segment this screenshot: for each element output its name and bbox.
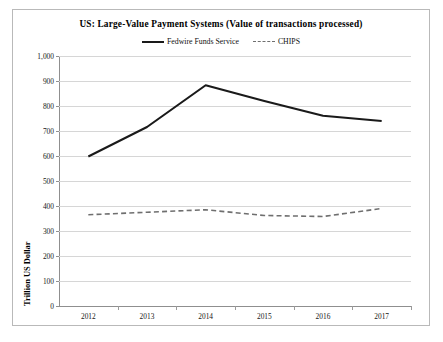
y-tick-label: 800 <box>43 102 54 111</box>
legend-label-fedwire: Fedwire Funds Service <box>167 37 239 46</box>
chart-figure: US: Large-Value Payment Systems (Value o… <box>12 9 430 326</box>
x-tick-label: 2012 <box>81 312 96 321</box>
chart-legend: Fedwire Funds Service CHIPS <box>13 37 429 46</box>
y-tick-label: 200 <box>43 252 54 261</box>
x-tick-label: 2016 <box>316 312 331 321</box>
y-axis-title: Trillion US Dollar <box>23 56 32 306</box>
chart-title: US: Large-Value Payment Systems (Value o… <box>13 19 429 29</box>
x-tick-mark <box>176 306 177 310</box>
x-tick-label: 2013 <box>140 312 155 321</box>
y-tick-label: 900 <box>43 77 54 86</box>
x-tick-mark <box>294 306 295 310</box>
y-tick-label: 700 <box>43 127 54 136</box>
y-tick-label: 300 <box>43 227 54 236</box>
legend-item-chips: CHIPS <box>253 37 300 46</box>
y-tick-label: 500 <box>43 177 54 186</box>
series-line-fedwire-funds-service <box>88 85 381 156</box>
y-tick-label: 400 <box>43 202 54 211</box>
x-tick-label: 2014 <box>198 312 213 321</box>
legend-label-chips: CHIPS <box>278 37 300 46</box>
legend-item-fedwire: Fedwire Funds Service <box>142 37 239 46</box>
x-tick-mark <box>352 306 353 310</box>
x-tick-mark <box>411 306 412 310</box>
y-tick-label: 1,000 <box>37 52 54 61</box>
y-tick-label: 100 <box>43 277 54 286</box>
x-tick-mark <box>235 306 236 310</box>
y-tick-mark <box>56 306 59 307</box>
series-layer <box>59 56 411 306</box>
plot-area: 01002003004005006007008009001,000 201220… <box>59 56 411 306</box>
x-tick-mark <box>118 306 119 310</box>
series-line-chips <box>88 209 381 217</box>
x-tick-label: 2017 <box>374 312 389 321</box>
y-tick-label: 0 <box>50 302 54 311</box>
legend-line-solid-icon <box>142 41 164 43</box>
x-tick-label: 2015 <box>257 312 272 321</box>
y-tick-label: 600 <box>43 152 54 161</box>
legend-line-dashed-icon <box>253 41 275 42</box>
